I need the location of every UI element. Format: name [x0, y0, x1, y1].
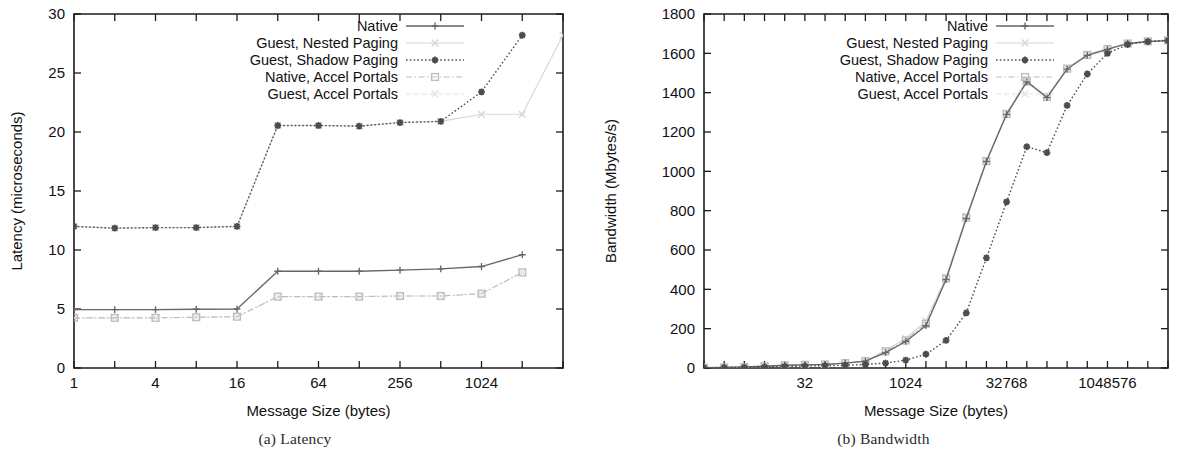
y-tick-label: 400 — [670, 281, 695, 298]
x-tick-label: 16 — [229, 374, 246, 391]
legend-label-2: Guest, Shadow Paging — [250, 52, 398, 68]
legend-swatch-marker-0 — [432, 23, 439, 30]
data-point-marker — [193, 306, 200, 313]
data-point-marker — [315, 268, 322, 275]
legend-label-3: Native, Accel Portals — [265, 69, 398, 85]
y-axis-title: Bandwidth (Mbytes/s) — [602, 119, 619, 263]
data-point-marker — [111, 225, 118, 232]
data-point-marker — [519, 269, 526, 276]
x-tick-label: 1 — [70, 374, 78, 391]
data-point-marker — [397, 119, 404, 126]
caption-bandwidth: (b)Bandwidth — [590, 430, 1177, 448]
data-point-marker — [741, 364, 748, 371]
data-point-marker — [111, 306, 118, 313]
data-point-marker — [701, 364, 708, 371]
y-tick-label: 1400 — [662, 84, 695, 101]
bandwidth-chart-svg: 0200400600800100012001400160018003210243… — [590, 0, 1177, 420]
data-point-marker — [437, 118, 444, 125]
data-point-marker — [1165, 37, 1172, 44]
caption-text-a: Latency — [280, 430, 331, 447]
legend-swatch-marker-0 — [1022, 23, 1029, 30]
data-point-marker — [943, 337, 950, 344]
data-point-marker — [882, 360, 889, 367]
y-tick-label: 200 — [670, 320, 695, 337]
series-native — [71, 251, 526, 313]
data-point-marker — [437, 265, 444, 272]
data-point-marker — [963, 310, 970, 317]
y-tick-label: 10 — [48, 241, 65, 258]
y-tick-label: 20 — [48, 123, 65, 140]
y-tick-label: 5 — [57, 300, 65, 317]
data-point-marker — [356, 123, 363, 130]
data-point-marker — [478, 263, 485, 270]
x-tick-label: 1024 — [889, 374, 922, 391]
data-point-marker — [983, 254, 990, 261]
data-point-marker — [519, 32, 526, 39]
x-tick-label: 32768 — [986, 374, 1028, 391]
data-point-marker — [356, 268, 363, 275]
data-point-marker — [274, 122, 281, 129]
data-point-marker — [71, 306, 78, 313]
caption-latency: (a)Latency — [0, 430, 590, 448]
x-tick-label: 256 — [387, 374, 412, 391]
legend-label-2: Guest, Shadow Paging — [840, 52, 988, 68]
data-point-marker — [842, 362, 849, 369]
series-line — [74, 272, 522, 317]
data-point-marker — [1023, 143, 1030, 150]
data-point-marker — [152, 306, 159, 313]
data-point-marker — [478, 88, 485, 95]
data-point-marker — [519, 251, 526, 258]
legend-label-1: Guest, Nested Paging — [256, 35, 398, 51]
data-point-marker — [71, 223, 78, 230]
figure-container: 0510152025301416642561024Message Size (b… — [0, 0, 1177, 454]
y-axis-title: Latency (microseconds) — [8, 111, 25, 270]
legend-swatch-marker-2 — [1022, 57, 1029, 64]
data-point-marker — [234, 223, 241, 230]
data-point-marker — [1144, 38, 1151, 45]
data-point-marker — [1044, 149, 1051, 156]
caption-index-b: (b) — [837, 430, 856, 447]
y-tick-label: 25 — [48, 64, 65, 81]
data-point-marker — [1003, 198, 1010, 205]
x-tick-label: 64 — [310, 374, 327, 391]
latency-chart-svg: 0510152025301416642561024Message Size (b… — [0, 0, 590, 420]
y-tick-label: 0 — [57, 359, 65, 376]
series-native-accel-portals — [71, 269, 526, 321]
x-axis-title: Message Size (bytes) — [864, 402, 1008, 419]
chart-panel-bandwidth: 0200400600800100012001400160018003210243… — [590, 0, 1177, 454]
data-point-marker — [721, 364, 728, 371]
legend-label-4: Guest, Accel Portals — [267, 86, 398, 102]
data-point-marker — [193, 224, 200, 231]
data-point-marker — [1104, 50, 1111, 57]
data-point-marker — [152, 224, 159, 231]
data-point-marker — [1084, 71, 1091, 78]
data-point-marker — [1064, 102, 1071, 109]
data-point-marker — [1124, 41, 1131, 48]
legend-swatch-marker-2 — [432, 57, 439, 64]
legend-label-3: Native, Accel Portals — [855, 69, 988, 85]
caption-index-a: (a) — [258, 430, 276, 447]
data-point-marker — [781, 363, 788, 370]
x-tick-label: 1024 — [465, 374, 498, 391]
y-tick-label: 1200 — [662, 123, 695, 140]
y-tick-label: 0 — [687, 359, 695, 376]
y-tick-label: 1600 — [662, 45, 695, 62]
data-point-marker — [902, 357, 909, 364]
x-axis-title: Message Size (bytes) — [246, 402, 390, 419]
legend-label-1: Guest, Nested Paging — [846, 35, 988, 51]
data-point-marker — [862, 361, 869, 368]
legend-label-0: Native — [357, 18, 398, 34]
legend-label-0: Native — [947, 18, 988, 34]
y-tick-label: 600 — [670, 241, 695, 258]
data-point-marker — [397, 267, 404, 274]
legend-label-4: Guest, Accel Portals — [857, 86, 988, 102]
x-tick-label: 32 — [797, 374, 814, 391]
x-tick-label: 4 — [151, 374, 159, 391]
data-point-marker — [761, 364, 768, 371]
x-tick-label: 1048576 — [1078, 374, 1136, 391]
caption-text-b: Bandwidth — [860, 430, 930, 447]
series-line — [74, 255, 522, 310]
y-tick-label: 1000 — [662, 163, 695, 180]
y-tick-label: 30 — [48, 5, 65, 22]
y-tick-label: 15 — [48, 182, 65, 199]
